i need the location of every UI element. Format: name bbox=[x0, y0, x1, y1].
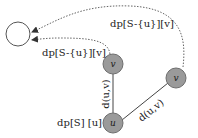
dp-transition-diagram: v v u dp[S-{u}][v] dp[S-{u}][v] d(u,v) d… bbox=[0, 0, 198, 138]
node-u-label: u bbox=[110, 118, 116, 128]
label-dp-u: dp[S] [u] bbox=[57, 117, 102, 128]
label-edge-diagonal: d(u,v) bbox=[136, 97, 166, 124]
label-edge-vertical: d(u,v) bbox=[100, 79, 111, 109]
label-dp-left: dp[S-{u}][v] bbox=[42, 47, 106, 58]
label-dp-top: dp[S-{u}][v] bbox=[110, 18, 174, 29]
target-node bbox=[6, 22, 30, 46]
node-v-right-label: v bbox=[173, 73, 178, 83]
node-v-middle-label: v bbox=[110, 59, 115, 69]
